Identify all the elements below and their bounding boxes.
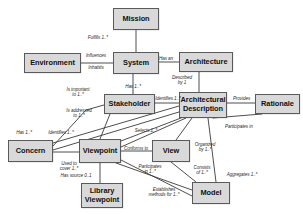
node-stakeholder[interactable]: Stakeholder [104,94,155,114]
edge-label-lbl-establishes: Establishes methods for 1..* [140,187,188,197]
edge-label-lbl-influences: Influences [81,53,111,58]
edge-label-lbl-has-source: Has source 0..1 [54,173,98,178]
architecture-description-diagram: MissionEnvironmentSystemArchitectureStak… [0,0,303,214]
connector-c-stakeholder-viewpoint [100,114,110,139]
edge-label-lbl-provides: Provides [228,96,255,101]
edge-label-lbl-identifies-ad: Identifies 1..* [152,96,184,101]
edge-label-lbl-fulfills: Fulfills 1..* [66,35,108,40]
edge-label-lbl-consists: Consists of 1..* [188,165,216,175]
node-environment[interactable]: Environment [24,53,81,73]
edge-label-lbl-organized: Organized by 1..* [190,142,220,152]
edge-label-lbl-described-by: Described by 1 [166,75,198,85]
node-rationale[interactable]: Rationale [255,94,300,114]
edge-label-lbl-aggregates: Aggregates 1..* [220,172,264,177]
node-arch-description[interactable]: Architectural Description [179,92,227,118]
edge-label-lbl-is-addressed: Is addressed to 1..* [59,108,99,118]
edge-label-lbl-identifies-vp: Identifies 1..* [43,130,79,135]
connector-c-archdesc-view [176,118,192,140]
node-concern[interactable]: Concern [8,140,53,162]
node-model[interactable]: Model [192,182,230,204]
edge-label-lbl-has-an: Has an [154,56,178,61]
node-architecture[interactable]: Architecture [179,52,233,72]
node-mission[interactable]: Mission [113,8,159,30]
edge-label-lbl-inhabits: Inhabits [81,65,111,70]
edge-label-lbl-has-1: Has 1..* [119,84,147,89]
node-view[interactable]: View [152,140,190,162]
edge-label-lbl-is-important: Is important to 1..* [58,87,98,97]
edge-label-lbl-has-1b: Has 1..* [10,130,38,135]
node-system[interactable]: System [113,52,159,74]
edge-label-lbl-participates: Participates in 1..* [133,164,167,174]
node-library-viewpoint[interactable]: Library Viewpoint [81,183,123,208]
edge-label-lbl-used-to-cover: Used to cover 1..* [54,161,84,171]
edge-label-lbl-participates-in: Participates in [225,124,267,129]
edge-label-lbl-selects: Selects 1..* [129,128,163,133]
edge-label-lbl-conforms: Conforms to [119,146,153,151]
node-viewpoint[interactable]: Viewpoint [79,139,121,163]
